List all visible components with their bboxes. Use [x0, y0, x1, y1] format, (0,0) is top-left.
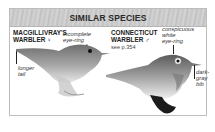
panel-header: SIMILAR SPECIES: [10, 9, 206, 27]
callout-text: bib: [196, 81, 209, 87]
species-name-line1: MACGILLIVRAY'S: [13, 29, 67, 36]
macgillivrays-warbler-illustration: [14, 41, 114, 101]
leader-line: [194, 65, 195, 79]
callout-text: eye-ring: [162, 38, 194, 44]
species-name-line2: WARBLER ♂: [111, 36, 158, 43]
similar-species-panel: SIMILAR SPECIES MACGILLIVRAY'S WARBLER ♀…: [9, 8, 207, 116]
callout-dark-gray-bib: dark- gray bib: [196, 69, 209, 88]
connecticut-warbler-illustration: [106, 49, 206, 119]
species-name-connecticut: CONNECTICUT WARBLER ♂: [111, 29, 158, 43]
callout-conspicuous-white-eye-ring: conspicuous white eye-ring: [162, 26, 194, 45]
species-name-line1: CONNECTICUT: [111, 29, 158, 36]
panel-title: SIMILAR SPECIES: [69, 13, 146, 23]
